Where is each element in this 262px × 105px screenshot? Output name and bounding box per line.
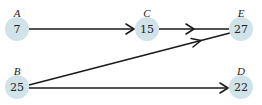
edges xyxy=(29,24,230,93)
directed-graph: A 7 C 15 E 27 B 25 D 22 xyxy=(0,0,262,105)
node-d-label: D xyxy=(236,65,245,77)
node-c: C 15 xyxy=(135,7,159,41)
node-b: B 25 xyxy=(5,65,29,99)
node-c-label: C xyxy=(143,7,151,19)
node-d-value: 22 xyxy=(234,81,248,94)
node-b-value: 25 xyxy=(10,81,24,94)
node-a-value: 7 xyxy=(14,23,21,36)
node-a-label: A xyxy=(13,7,21,19)
node-c-value: 15 xyxy=(140,23,154,36)
node-e-value: 27 xyxy=(234,23,248,36)
node-e: E 27 xyxy=(229,7,253,41)
node-e-label: E xyxy=(237,7,245,19)
node-d: D 22 xyxy=(229,65,253,99)
node-a: A 7 xyxy=(5,7,29,41)
node-b-label: B xyxy=(14,65,21,77)
